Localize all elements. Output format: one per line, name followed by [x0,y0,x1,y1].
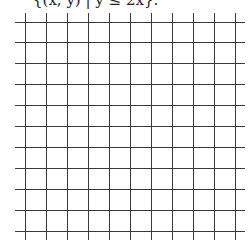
coordinate-grid [0,0,252,250]
